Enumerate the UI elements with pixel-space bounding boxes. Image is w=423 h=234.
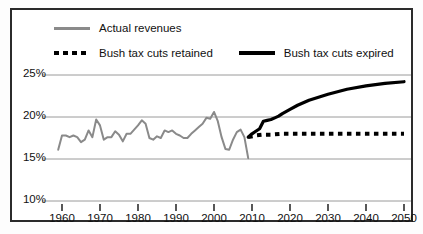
series-bush-tax-cuts-retained xyxy=(248,134,404,137)
gridlines xyxy=(42,75,411,201)
x-axis-label: 2000 xyxy=(194,212,234,224)
plot-area xyxy=(12,10,415,224)
series-bush-tax-cuts-expired xyxy=(248,82,404,137)
y-axis-label: 20% xyxy=(12,109,46,121)
x-axis-label: 2010 xyxy=(232,212,272,224)
x-axis-label: 1970 xyxy=(80,212,120,224)
y-axis-label: 25% xyxy=(12,67,46,79)
chart-frame: Actual revenues Bush tax cuts retained B… xyxy=(10,8,413,222)
y-axis-label: 10% xyxy=(12,193,46,205)
series-actual-revenues xyxy=(58,112,248,158)
x-axis-label: 2020 xyxy=(270,212,310,224)
x-axis-label: 2050 xyxy=(384,212,423,224)
y-axis-label: 15% xyxy=(12,151,46,163)
x-axis-label: 1990 xyxy=(156,212,196,224)
x-axis-label: 2030 xyxy=(308,212,348,224)
x-axis-label: 1980 xyxy=(118,212,158,224)
series-layer xyxy=(58,82,404,158)
x-axis-label: 2040 xyxy=(346,212,386,224)
x-axis-ticks xyxy=(62,204,404,211)
x-axis-label: 1960 xyxy=(42,212,82,224)
